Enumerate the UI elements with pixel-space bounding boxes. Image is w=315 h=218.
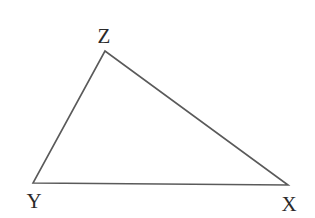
side-ZY bbox=[33, 51, 105, 183]
triangle-figure: Z Y X bbox=[0, 0, 315, 218]
vertex-label-z: Z bbox=[98, 24, 111, 48]
triangle-diagram: Z Y X bbox=[0, 0, 315, 218]
vertex-label-x: X bbox=[281, 192, 296, 216]
triangle-xyz bbox=[33, 51, 288, 185]
vertex-label-y: Y bbox=[26, 189, 41, 213]
side-XZ bbox=[105, 51, 288, 185]
